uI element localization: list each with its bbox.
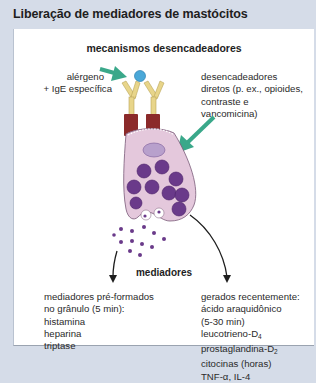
mediators-label: mediadores	[14, 267, 314, 278]
new-header: gerados recentemente:	[201, 291, 300, 303]
new-item: leucotrieno-D4	[201, 328, 300, 343]
new-item: prostaglandina-D2	[201, 343, 300, 358]
released-mediators-icon	[112, 225, 166, 257]
new-item: ácido araquidônico	[201, 303, 300, 315]
preformed-item: histamina	[44, 316, 154, 328]
new-mediators-list: gerados recentemente: ácido araquidônico…	[201, 291, 300, 383]
diagram-panel: mecanismos desencadeadores alérgeno + Ig…	[13, 29, 314, 346]
subscript: 2	[274, 348, 278, 355]
new-item: citocinas (horas)	[201, 358, 300, 370]
preformed-item: triptase	[44, 340, 154, 352]
new-item: (5-30 min)	[201, 316, 300, 328]
new-item-text: prostaglandina-D	[201, 343, 274, 354]
ige-antibody-icon	[122, 81, 164, 115]
preformed-mediators-list: mediadores pré-formados no grânulo (5 mi…	[44, 291, 154, 352]
allergen-icon	[135, 71, 146, 82]
preformed-item: heparina	[44, 328, 154, 340]
new-item-text: leucotrieno-D	[201, 328, 258, 339]
preformed-header-2: no grânulo (5 min):	[44, 303, 154, 315]
nucleus-icon	[143, 143, 165, 157]
allergen-arrow-icon	[100, 66, 127, 81]
new-item: TNF-α, IL-4	[201, 371, 300, 383]
figure-title: Liberação de mediadores de mastócitos	[13, 7, 248, 21]
preformed-header-1: mediadores pré-formados	[44, 291, 154, 303]
subscript: 4	[258, 333, 262, 340]
